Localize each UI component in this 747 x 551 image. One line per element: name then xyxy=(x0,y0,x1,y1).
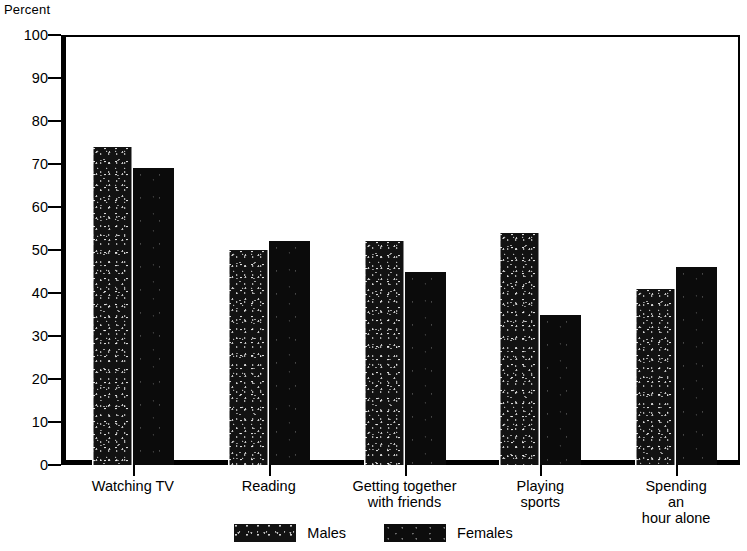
bar-females xyxy=(269,241,310,465)
bar-females xyxy=(405,272,446,466)
x-axis-tick xyxy=(676,465,678,476)
bar-males xyxy=(364,241,405,465)
bar-males xyxy=(92,147,133,465)
bar-males xyxy=(499,233,540,465)
y-axis-tick xyxy=(48,421,61,423)
bar-males xyxy=(635,289,676,465)
bar-females xyxy=(676,267,717,465)
x-axis-category-label: Playing sports xyxy=(517,478,565,510)
x-axis-tick xyxy=(540,465,542,476)
y-axis-title: Percent xyxy=(4,2,50,17)
females-swatch xyxy=(384,524,446,542)
legend-item-females: Females xyxy=(384,524,513,542)
y-axis-tick xyxy=(48,378,61,380)
x-axis-category-label: Getting together with friends xyxy=(353,478,457,510)
y-axis-tick-label: 0 xyxy=(4,458,48,473)
legend-item-males: Males xyxy=(234,524,346,542)
y-axis-tick xyxy=(48,464,61,466)
legend-label: Females xyxy=(457,526,513,541)
y-axis-tick-label: 10 xyxy=(4,415,48,430)
x-axis-category-label: Reading xyxy=(242,478,296,494)
y-axis-tick xyxy=(48,34,61,36)
x-axis-tick xyxy=(405,465,407,476)
y-axis-tick xyxy=(48,120,61,122)
chart-legend: MalesFemales xyxy=(0,524,747,542)
bar-females xyxy=(540,315,581,466)
y-axis-tick-label: 40 xyxy=(4,286,48,301)
y-axis-tick-label: 70 xyxy=(4,157,48,172)
bar-females xyxy=(133,168,174,465)
y-axis-tick-label: 50 xyxy=(4,243,48,258)
x-axis-tick xyxy=(269,465,271,476)
y-axis-tick xyxy=(48,292,61,294)
y-axis-tick-label: 30 xyxy=(4,329,48,344)
y-axis-tick-label: 90 xyxy=(4,71,48,86)
y-axis-tick xyxy=(48,249,61,251)
y-axis-tick-label: 60 xyxy=(4,200,48,215)
y-axis-tick xyxy=(48,206,61,208)
y-axis-tick-label: 100 xyxy=(4,28,48,43)
males-swatch xyxy=(234,524,296,542)
x-axis-tick xyxy=(133,465,135,476)
bars-layer xyxy=(61,35,740,465)
legend-label: Males xyxy=(307,526,346,541)
bar-males xyxy=(228,250,269,465)
y-axis-tick-label: 20 xyxy=(4,372,48,387)
bar-chart: Percent 0102030405060708090100 Watching … xyxy=(0,0,747,551)
x-axis-category-label: Spending an hour alone xyxy=(641,478,712,527)
y-axis-tick xyxy=(48,77,61,79)
y-axis-tick xyxy=(48,335,61,337)
y-axis-tick-label: 80 xyxy=(4,114,48,129)
x-axis-category-label: Watching TV xyxy=(92,478,174,494)
y-axis-tick xyxy=(48,163,61,165)
